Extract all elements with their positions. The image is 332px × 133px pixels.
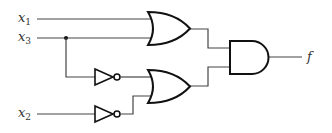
output-var: f bbox=[307, 49, 312, 64]
wire-not2-to-or2 bbox=[121, 96, 152, 114]
input-label-x3: x3 bbox=[18, 30, 31, 46]
input-subscript: 2 bbox=[25, 112, 31, 122]
input-label-x2: x2 bbox=[18, 106, 31, 122]
not-gate-2 bbox=[95, 106, 113, 122]
not-gate-1-bubble bbox=[114, 74, 120, 80]
input-label-x1: x1 bbox=[18, 11, 31, 27]
input-subscript: 1 bbox=[25, 17, 31, 27]
not-gate-2-bubble bbox=[114, 111, 120, 117]
wire-or2-to-and bbox=[190, 67, 230, 86]
or-gate-1 bbox=[148, 12, 190, 45]
output-label-f: f bbox=[307, 50, 312, 63]
or-gate-2 bbox=[148, 70, 190, 103]
circuit-svg bbox=[0, 0, 332, 133]
and-gate bbox=[230, 41, 269, 74]
wire-or1-to-and bbox=[190, 29, 230, 48]
logic-circuit-diagram: x1 x3 x2 f bbox=[0, 0, 332, 133]
wire-x3-to-not1 bbox=[66, 38, 95, 77]
not-gate-1 bbox=[95, 69, 113, 85]
input-subscript: 3 bbox=[25, 36, 31, 46]
